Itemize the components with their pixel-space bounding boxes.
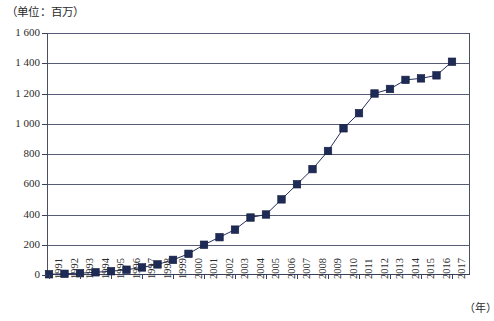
- x-axis-tick-mark: [49, 275, 50, 279]
- y-axis-tick-mark: [42, 154, 47, 155]
- data-point-marker: [433, 72, 441, 80]
- data-point-marker: [324, 147, 332, 155]
- x-axis-tick-label: 2010: [348, 258, 359, 279]
- x-axis-tick-label: 1999: [177, 258, 188, 279]
- data-series: [47, 33, 470, 275]
- x-axis-tick-label: 2006: [286, 258, 297, 279]
- x-axis-tick-label: 1994: [100, 258, 111, 279]
- x-axis-tick-label: 2012: [379, 258, 390, 279]
- y-axis-tick-label: 1 000: [15, 117, 40, 129]
- x-axis-tick-label: 2015: [425, 258, 436, 279]
- x-axis-tick-mark: [328, 275, 329, 279]
- x-axis-tick-label: 2017: [456, 258, 467, 279]
- y-axis-tick-mark: [42, 94, 47, 95]
- data-point-marker: [293, 181, 301, 189]
- y-axis-tick-label: 1 600: [15, 26, 40, 38]
- y-axis-tick-mark: [42, 275, 47, 276]
- x-axis-tick-mark: [204, 275, 205, 279]
- x-axis-tick-label: 2004: [255, 258, 266, 279]
- x-axis-tick-mark: [421, 275, 422, 279]
- x-axis-unit-label: （年）: [464, 299, 494, 315]
- x-axis-tick-label: 2013: [394, 258, 405, 279]
- series-line: [49, 62, 452, 275]
- y-axis-tick-label: 400: [24, 208, 41, 220]
- data-point-marker: [309, 165, 317, 173]
- data-point-marker: [402, 76, 410, 84]
- data-point-marker: [262, 211, 270, 219]
- x-axis-tick-label: 2014: [410, 258, 421, 279]
- y-axis-tick-label: 800: [24, 147, 41, 159]
- x-axis-tick-mark: [390, 275, 391, 279]
- x-axis-tick-label: 2008: [317, 258, 328, 279]
- chart-unit-caption: （单位：百万）: [6, 3, 84, 19]
- data-point-marker: [386, 85, 394, 93]
- y-axis-tick-mark: [42, 63, 47, 64]
- data-point-marker: [247, 214, 255, 222]
- y-axis-tick-label: 1 400: [15, 56, 40, 68]
- x-axis-tick-mark: [142, 275, 143, 279]
- x-axis-tick-mark: [359, 275, 360, 279]
- data-point-marker: [278, 196, 286, 204]
- x-axis-tick-label: 1993: [84, 258, 95, 279]
- y-axis-tick-mark: [42, 33, 47, 34]
- data-point-marker: [216, 233, 224, 241]
- x-axis-tick-label: 1992: [69, 258, 80, 279]
- x-axis-tick-label: 2001: [208, 258, 219, 279]
- x-axis-tick-label: 1996: [131, 258, 142, 279]
- x-axis-tick-mark: [111, 275, 112, 279]
- y-axis-tick-label: 0: [35, 268, 41, 280]
- y-axis-tick-label: 1 200: [15, 87, 40, 99]
- data-point-marker: [231, 226, 239, 234]
- x-axis-tick-label: 2000: [193, 258, 204, 279]
- data-point-marker: [371, 90, 379, 98]
- x-axis-tick-label: 1997: [146, 258, 157, 279]
- y-axis-tick-mark: [42, 124, 47, 125]
- y-axis-tick-mark: [42, 245, 47, 246]
- x-axis-tick-label: 2007: [301, 258, 312, 279]
- data-point-marker: [340, 125, 348, 133]
- x-axis-tick-label: 2009: [332, 258, 343, 279]
- x-axis-tick-label: 1998: [162, 258, 173, 279]
- x-axis-tick-mark: [452, 275, 453, 279]
- y-axis-tick-mark: [42, 215, 47, 216]
- y-axis-tick-mark: [42, 184, 47, 185]
- x-axis-tick-label: 2011: [363, 258, 374, 279]
- data-point-marker: [200, 241, 208, 249]
- x-axis-tick-label: 1995: [115, 258, 126, 279]
- x-axis-tick-mark: [266, 275, 267, 279]
- x-axis-tick-label: 2003: [239, 258, 250, 279]
- x-axis-tick-mark: [173, 275, 174, 279]
- data-point-marker: [355, 109, 363, 117]
- data-point-marker: [185, 250, 193, 258]
- x-axis-tick-label: 1991: [53, 258, 64, 279]
- x-axis-tick-mark: [80, 275, 81, 279]
- x-axis-tick-mark: [235, 275, 236, 279]
- x-axis-tick-label: 2002: [224, 258, 235, 279]
- x-axis-tick-label: 2016: [441, 258, 452, 279]
- y-axis-tick-label: 600: [24, 177, 41, 189]
- plot-area: [47, 33, 470, 275]
- data-point-marker: [417, 75, 425, 83]
- data-point-marker: [448, 58, 456, 66]
- y-axis-tick-label: 200: [24, 238, 41, 250]
- x-axis-tick-label: 2005: [270, 258, 281, 279]
- x-axis-tick-mark: [297, 275, 298, 279]
